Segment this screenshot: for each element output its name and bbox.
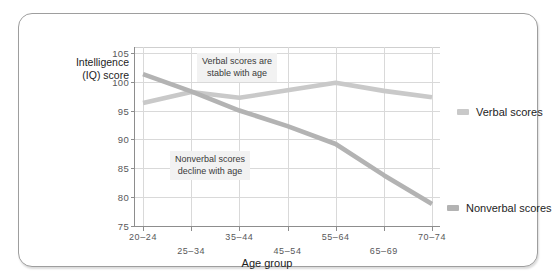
legend-label-verbal: Verbal scores <box>476 106 543 118</box>
x-axis-tick-label: 35–44 <box>225 232 253 242</box>
y-axis-tick-label: 90 <box>118 134 129 145</box>
annotation-nonverbal-scores: Nonverbal scores decline with age <box>170 151 250 180</box>
y-axis-tick-mark <box>131 226 135 227</box>
x-axis-title-text: Age group <box>242 257 293 269</box>
chart-figure: Intelligence (IQ) score 7580859095100105… <box>0 0 554 280</box>
annotation-verbal-scores: Verbal scores are stable with age <box>197 53 277 82</box>
x-axis-tick-mark <box>239 226 240 231</box>
y-axis-tick-label: 95 <box>118 105 129 116</box>
x-axis-tick-label: 45–54 <box>273 246 301 256</box>
legend-swatch-verbal <box>457 109 469 115</box>
x-axis-tick-mark <box>191 226 192 231</box>
legend-item-nonverbal-scores: Nonverbal scores <box>447 202 552 214</box>
chart-frame-border: Intelligence (IQ) score 7580859095100105… <box>18 13 538 267</box>
x-axis-tick-label: 25–34 <box>177 246 205 256</box>
x-axis-title: Age group <box>19 257 554 269</box>
x-axis-tick-mark <box>143 226 144 231</box>
y-axis-tick-label: 100 <box>112 76 129 87</box>
y-axis-tick-label: 105 <box>112 47 129 58</box>
data-series-lines <box>135 47 440 226</box>
x-axis-tick-mark <box>384 226 385 231</box>
y-axis-tick-label: 85 <box>118 163 129 174</box>
y-axis-tick-label: 75 <box>118 221 129 232</box>
x-axis-tick-label: 65–69 <box>370 246 398 256</box>
legend-item-verbal-scores: Verbal scores <box>457 106 543 118</box>
x-axis-tick-mark <box>432 226 433 231</box>
x-axis-tick-label: 55–64 <box>322 232 350 242</box>
series-line-verbal-scores <box>143 83 432 103</box>
x-axis-tick-mark <box>288 226 289 231</box>
x-axis-tick-label: 20–24 <box>129 232 157 242</box>
x-axis-tick-label: 70–74 <box>418 232 446 242</box>
y-axis-tick-label: 80 <box>118 192 129 203</box>
legend-label-nonverbal: Nonverbal scores <box>466 202 552 214</box>
x-axis-tick-mark <box>336 226 337 231</box>
legend-swatch-nonverbal <box>447 205 459 211</box>
plot-area: 7580859095100105 20–2425–3435–4445–5455–… <box>134 47 440 227</box>
